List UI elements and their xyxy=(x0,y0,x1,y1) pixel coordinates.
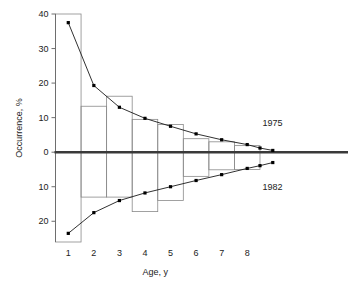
bars-group xyxy=(56,14,260,242)
bar-age-4 xyxy=(132,119,158,211)
axis-group xyxy=(52,14,349,242)
chart-container: 40302010010201234567819751982Age, yOccur… xyxy=(0,0,353,285)
bar-age-6 xyxy=(183,139,209,177)
data-point-1975-7 xyxy=(220,138,223,141)
data-point-1975-1 xyxy=(67,21,70,24)
data-point-1975-10 xyxy=(271,149,274,152)
series-line-1975 xyxy=(68,23,273,151)
data-point-1982-6 xyxy=(194,179,197,182)
data-point-1982-3 xyxy=(118,199,121,202)
x-tick-label-1: 1 xyxy=(66,248,71,258)
data-point-1982-10 xyxy=(271,161,274,164)
labels-group: 40302010010201234567819751982Age, yOccur… xyxy=(14,9,283,277)
data-point-1982-2 xyxy=(92,211,95,214)
x-tick-label-6: 6 xyxy=(194,248,199,258)
y-tick-label-10: 10 xyxy=(38,113,48,123)
data-point-1982-8 xyxy=(246,167,249,170)
data-point-1975-3 xyxy=(118,106,121,109)
bar-age-1 xyxy=(56,14,82,242)
occurrence-by-age-chart: 40302010010201234567819751982Age, yOccur… xyxy=(0,0,353,285)
data-point-1975-4 xyxy=(143,117,146,120)
series-line-1982 xyxy=(68,163,273,234)
data-point-1975-2 xyxy=(92,84,95,87)
data-point-1982-4 xyxy=(143,191,146,194)
y-axis-title: Occurrence, % xyxy=(14,98,24,158)
x-tick-label-8: 8 xyxy=(245,248,250,258)
data-point-1982-7 xyxy=(220,173,223,176)
data-point-1982-9 xyxy=(258,164,261,167)
x-axis-title: Age, y xyxy=(142,267,168,277)
x-tick-label-7: 7 xyxy=(219,248,224,258)
x-tick-label-4: 4 xyxy=(142,248,147,258)
bar-age-7 xyxy=(209,142,235,170)
y-tick-label-30: 30 xyxy=(38,44,48,54)
data-point-1975-9 xyxy=(258,146,261,149)
data-point-1975-5 xyxy=(169,125,172,128)
data-point-1975-6 xyxy=(194,132,197,135)
data-point-1975-8 xyxy=(246,143,249,146)
series-annotation-1982: 1982 xyxy=(263,182,283,192)
x-tick-label-3: 3 xyxy=(117,248,122,258)
series-group xyxy=(67,21,275,235)
data-point-1982-5 xyxy=(169,185,172,188)
data-point-1982-1 xyxy=(67,232,70,235)
y-tick-label-20: 20 xyxy=(38,216,48,226)
y-tick-label-20: 20 xyxy=(38,78,48,88)
x-tick-label-2: 2 xyxy=(91,248,96,258)
series-annotation-1975: 1975 xyxy=(263,118,283,128)
x-tick-label-5: 5 xyxy=(168,248,173,258)
y-tick-label-10: 10 xyxy=(38,182,48,192)
y-tick-label-0: 0 xyxy=(43,147,48,157)
y-tick-label-40: 40 xyxy=(38,9,48,19)
bar-age-8 xyxy=(234,146,260,170)
